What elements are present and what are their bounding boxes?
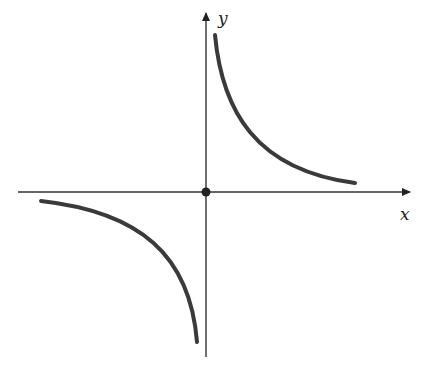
- curve-branch-quadrant-3: [41, 201, 197, 342]
- x-axis-label: x: [400, 204, 410, 224]
- y-axis-label: y: [218, 8, 228, 28]
- hyperbola-plot: [0, 0, 428, 379]
- origin-point: [202, 188, 211, 197]
- curve-branch-quadrant-1: [215, 35, 355, 183]
